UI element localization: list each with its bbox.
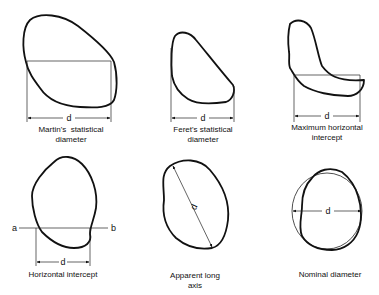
panel-apparent-long-axis: d Apparent long axis [163, 160, 228, 290]
measure-label: d [66, 113, 71, 123]
caption-line-2: diameter [55, 135, 86, 144]
measure-label: d [325, 206, 330, 216]
panel-martin: d Martin's statistical diameter [23, 15, 116, 144]
panel-max-horizontal-intercept: d Maximum horizontal intercept [288, 21, 364, 142]
caption-line-1: Horizontal intercept [29, 270, 99, 279]
particle-outline [32, 157, 96, 248]
measure-label: d [60, 257, 65, 267]
panel-horizontal-intercept: a b d Horizontal intercept [12, 157, 116, 279]
caption-line-2: diameter [187, 135, 218, 144]
line-end-label: b [111, 223, 116, 233]
panel-feret: d Feret's statistical diameter [171, 33, 234, 144]
caption-line-1: Nominal diameter [299, 270, 362, 279]
caption-line-1: Feret's statistical [173, 125, 233, 134]
caption-line-1: Apparent long [170, 271, 220, 280]
caption-line-2: intercept [312, 133, 343, 142]
caption-line-2: axis [188, 281, 202, 290]
caption-line-1: Martin's statistical [38, 125, 103, 134]
particle-outline [288, 21, 364, 96]
particle-diameter-diagram: d Martin's statistical diameter d Feret'… [0, 0, 379, 295]
particle-outline [171, 33, 234, 104]
measure-label: d [324, 111, 329, 121]
caption-line-1: Maximum horizontal [291, 123, 363, 132]
measure-label: d [200, 113, 205, 123]
particle-outline [163, 160, 228, 248]
measure-label: d [188, 203, 199, 212]
panel-nominal-diameter: d Nominal diameter [292, 169, 362, 279]
line-start-label: a [12, 223, 17, 233]
